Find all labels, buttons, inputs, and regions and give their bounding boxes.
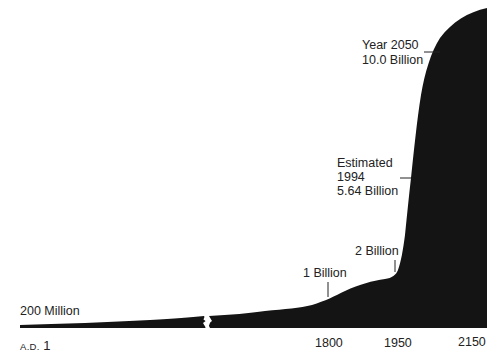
label-200-million: 200 Million [20, 304, 80, 318]
x-tick-1800: 1800 [315, 336, 343, 350]
x-tick-2150: 2150 [458, 335, 486, 349]
ad-year: 1 [43, 338, 50, 353]
label-estimated: Estimated [337, 156, 393, 170]
ad-prefix: A.D. [20, 341, 40, 352]
x-tick-ad-1: A.D. 1 [20, 339, 50, 354]
label-year-2050: Year 2050 [362, 38, 419, 52]
label-1994: 1994 [337, 170, 365, 184]
label-5-64-billion: 5.64 Billion [337, 184, 398, 198]
x-tick-1950: 1950 [384, 336, 412, 350]
label-10-billion: 10.0 Billion [362, 53, 423, 67]
label-2-billion: 2 Billion [355, 244, 399, 258]
axis-break-icon [205, 314, 209, 330]
label-1-billion: 1 Billion [303, 266, 347, 280]
